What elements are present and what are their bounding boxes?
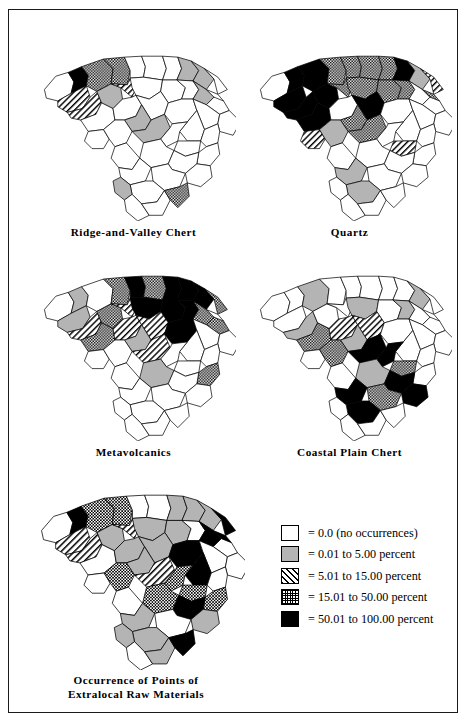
county-region xyxy=(203,587,227,611)
legend-label-none: = 0.0 (no occurrences) xyxy=(308,526,418,540)
county-region xyxy=(142,56,167,80)
legend: = 0.0 (no occurrences) = 0.01 to 5.00 pe… xyxy=(281,522,461,630)
county-region xyxy=(142,276,167,300)
map-occurrence-of-points xyxy=(27,478,245,670)
county-region xyxy=(225,553,245,579)
legend-row: = 5.01 to 15.00 percent xyxy=(281,565,461,587)
legend-row: = 0.0 (no occurrences) xyxy=(281,522,461,544)
county-layer xyxy=(44,276,236,441)
map-caption-quartz: Quartz xyxy=(247,226,452,240)
figure-page: Ridge-and-Valley Chert Quartz Metavolcan… xyxy=(0,0,467,724)
county-region xyxy=(197,363,220,386)
map-coastal-plain-chert xyxy=(247,260,452,441)
map-panel-quartz: Quartz xyxy=(247,40,452,240)
legend-swatch-very-high xyxy=(281,611,299,627)
map-quartz xyxy=(247,40,452,221)
county-layer xyxy=(260,56,452,221)
legend-swatch-low xyxy=(281,546,299,562)
map-metavolcanics xyxy=(31,260,236,441)
map-panel-ridge-and-valley-chert: Ridge-and-Valley Chert xyxy=(31,40,236,240)
legend-row: = 50.01 to 100.00 percent xyxy=(281,608,461,630)
legend-label-low: = 0.01 to 5.00 percent xyxy=(308,547,415,561)
legend-swatch-high xyxy=(281,589,299,605)
county-region xyxy=(145,495,171,520)
map-panel-coastal-plain-chert: Coastal Plain Chert xyxy=(247,260,452,460)
county-region xyxy=(218,330,236,355)
legend-label-very-high: = 50.01 to 100.00 percent xyxy=(308,612,433,626)
county-region xyxy=(218,110,236,135)
county-layer xyxy=(260,276,452,441)
legend-swatch-moderate xyxy=(281,568,299,584)
legend-row: = 15.01 to 50.00 percent xyxy=(281,587,461,609)
map-caption-occurrence-of-points: Occurrence of Points of Extralocal Raw M… xyxy=(27,674,245,701)
map-panel-occurrence-of-points: Occurrence of Points of Extralocal Raw M… xyxy=(27,478,245,701)
county-layer xyxy=(42,495,245,670)
legend-swatch-none xyxy=(281,525,299,541)
county-region xyxy=(358,56,383,80)
map-caption-coastal-plain-chert: Coastal Plain Chert xyxy=(247,446,452,460)
map-caption-ridge-and-valley-chert: Ridge-and-Valley Chert xyxy=(31,226,236,240)
legend-label-moderate: = 5.01 to 15.00 percent xyxy=(308,569,421,583)
county-region xyxy=(358,276,383,300)
legend-label-high: = 15.01 to 50.00 percent xyxy=(308,590,427,604)
map-panel-metavolcanics: Metavolcanics xyxy=(31,260,236,460)
county-layer xyxy=(44,56,236,221)
county-region xyxy=(434,110,452,135)
legend-row: = 0.01 to 5.00 percent xyxy=(281,544,461,566)
county-region xyxy=(413,363,436,386)
map-ridge-and-valley-chert xyxy=(31,40,236,221)
county-region xyxy=(413,143,436,166)
map-caption-metavolcanics: Metavolcanics xyxy=(31,446,236,460)
county-region xyxy=(197,143,220,166)
figure-body: Ridge-and-Valley Chert Quartz Metavolcan… xyxy=(9,10,457,712)
county-region xyxy=(434,330,452,355)
figure-frame: Ridge-and-Valley Chert Quartz Metavolcan… xyxy=(8,9,458,713)
